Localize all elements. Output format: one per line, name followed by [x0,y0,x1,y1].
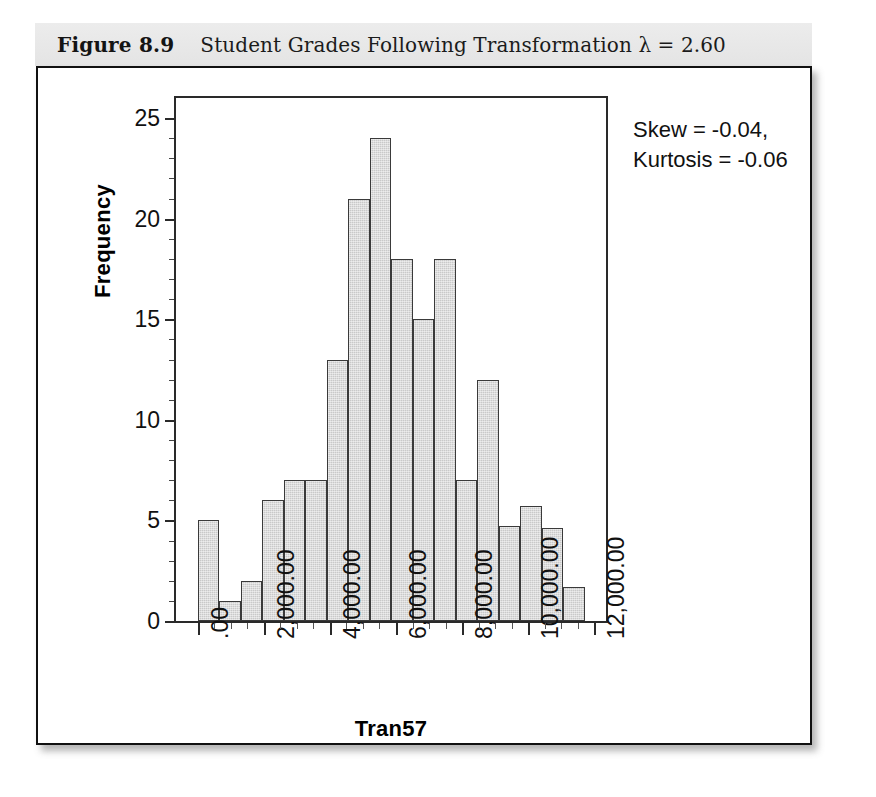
x-axis-tick [594,623,596,635]
x-axis: .002,000.004,000.006,000.008,000.0010,00… [174,623,608,773]
y-axis-tick-label: 10 [134,406,160,433]
x-axis-tick-label: 4,000.00 [339,549,366,639]
x-axis-minor-tick [479,623,480,629]
x-axis-minor-tick [429,623,430,629]
x-axis-tick-label: 2,000.00 [273,549,300,639]
x-axis-minor-tick [313,623,314,629]
x-axis-tick-label: .00 [207,607,234,639]
x-axis-tick [264,623,266,635]
x-axis-minor-tick [363,623,364,629]
x-axis-tick [462,623,464,635]
x-axis-tick-label: 6,000.00 [405,549,432,639]
x-axis-minor-tick [247,623,248,629]
histogram-bar [241,581,263,621]
x-axis-minor-tick [446,623,447,629]
x-axis-title: Tran57 [174,716,608,742]
figure-title-band: Figure 8.9 Student Grades Following Tran… [35,23,812,66]
y-axis-tick-label: 20 [134,205,160,232]
x-axis-minor-tick [561,623,562,629]
x-axis-tick [528,623,530,635]
histogram-plot: Frequency 0510152025 .002,000.004,000.00… [38,68,810,743]
x-axis-tick-label: 10,000.00 [537,537,564,639]
y-axis-tick [165,319,174,321]
skew-text: Skew = -0.04, [633,115,788,145]
y-axis-tick [165,219,174,221]
y-axis-tick [165,118,174,120]
x-axis-minor-tick [346,623,347,629]
x-axis-minor-tick [214,623,215,629]
y-axis-tick-label: 5 [147,507,160,534]
histogram-bar [499,526,521,621]
x-axis-tick [330,623,332,635]
y-axis-tick [165,420,174,422]
y-axis-tick [165,520,174,522]
kurtosis-text: Kurtosis = -0.06 [633,145,788,175]
x-axis-minor-tick [413,623,414,629]
x-axis-minor-tick [297,623,298,629]
figure-page: Figure 8.9 Student Grades Following Tran… [0,0,876,797]
figure-box: Frequency 0510152025 .002,000.004,000.00… [36,66,812,745]
x-axis-tick-label: 8,000.00 [471,549,498,639]
x-axis-tick [198,623,200,635]
x-axis-minor-tick [231,623,232,629]
histogram-bar [305,480,327,621]
y-axis: 0510152025 [38,96,174,623]
histogram-bar [198,520,220,621]
y-axis-tick-label: 15 [134,306,160,333]
x-axis-minor-tick [379,623,380,629]
figure-number: Figure 8.9 [57,33,174,57]
x-axis-minor-tick [545,623,546,629]
x-axis-minor-tick [495,623,496,629]
histogram-bar [434,259,456,621]
stats-annotation: Skew = -0.04, Kurtosis = -0.06 [633,115,788,174]
figure-caption: Student Grades Following Transformation … [200,33,726,57]
y-axis-tick-label: 25 [134,105,160,132]
y-axis-tick-label: 0 [147,608,160,635]
x-axis-tick-label: 12,000.00 [603,537,630,639]
x-axis-minor-tick [578,623,579,629]
histogram-bar [370,138,392,621]
histogram-bar [563,587,585,621]
x-axis-minor-tick [280,623,281,629]
x-axis-tick [396,623,398,635]
x-axis-minor-tick [512,623,513,629]
y-axis-tick [165,621,174,623]
